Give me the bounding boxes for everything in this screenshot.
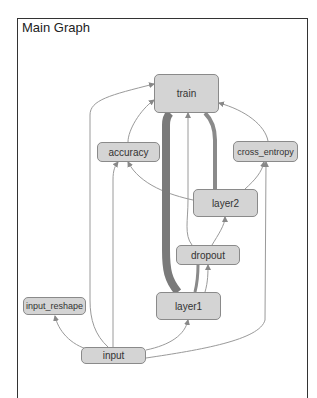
node-layer1[interactable]: layer1 bbox=[156, 292, 221, 320]
node-layer2[interactable]: layer2 bbox=[193, 189, 258, 217]
node-dropout[interactable]: dropout bbox=[176, 245, 240, 265]
node-label: cross_entropy bbox=[237, 147, 294, 157]
node-label: layer2 bbox=[212, 198, 239, 209]
edge-input-train bbox=[90, 84, 154, 347]
node-label: input bbox=[103, 350, 125, 361]
node-label: layer1 bbox=[175, 301, 202, 312]
node-accuracy[interactable]: accuracy bbox=[97, 142, 160, 162]
edge-layer1-train-thick bbox=[166, 113, 178, 292]
edge-layer2-crossentropy bbox=[245, 162, 264, 189]
edge-input-accuracy bbox=[113, 162, 118, 347]
node-label: input_reshape bbox=[26, 301, 83, 311]
node-train[interactable]: train bbox=[154, 74, 219, 113]
edge-dropout-train bbox=[187, 113, 192, 245]
edge-input-layer1 bbox=[146, 320, 188, 350]
node-label: train bbox=[177, 88, 196, 99]
edge-layer2-accuracy bbox=[128, 162, 193, 200]
edge-accuracy-train bbox=[128, 100, 154, 142]
edge-layer1-dropout bbox=[205, 265, 208, 292]
node-input-reshape[interactable]: input_reshape bbox=[23, 297, 86, 315]
edge-crossentropy-train bbox=[219, 103, 268, 141]
edge-layer2-train-thick bbox=[205, 113, 215, 189]
edge-layer1-layer2 bbox=[195, 265, 198, 292]
node-label: accuracy bbox=[108, 147, 148, 158]
node-input[interactable]: input bbox=[81, 347, 146, 364]
edge-input-inputreshape bbox=[55, 316, 90, 350]
node-label: dropout bbox=[191, 250, 225, 261]
node-cross-entropy[interactable]: cross_entropy bbox=[233, 141, 298, 162]
edge-dropout-layer2 bbox=[212, 217, 225, 245]
